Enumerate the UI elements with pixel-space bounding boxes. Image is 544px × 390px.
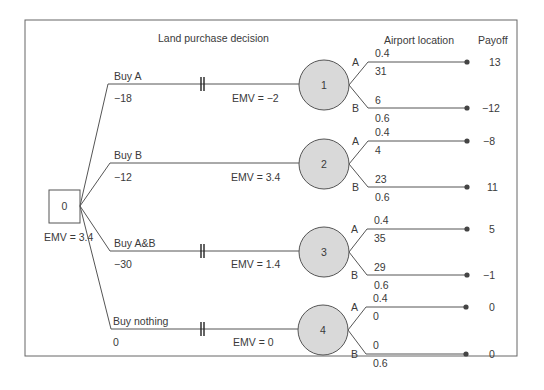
- payoff-value: 0: [489, 348, 495, 360]
- branch-emv: EMV = −2: [232, 92, 279, 104]
- branch-emv: EMV = 0: [233, 336, 274, 348]
- chance-node-label: 2: [321, 158, 327, 170]
- outcome-value: 0: [373, 339, 379, 351]
- payoff-value: −12: [482, 102, 500, 114]
- header-chance: Airport location: [384, 34, 454, 46]
- outcome-prob: 0.6: [373, 357, 388, 369]
- outcome-label: B: [351, 348, 358, 360]
- outcome-value: 0: [373, 310, 379, 322]
- root-emv: EMV = 3.4: [44, 231, 93, 243]
- branch-cost: 0: [113, 336, 119, 348]
- decision-node-label: 0: [62, 200, 68, 212]
- outcome-value: 35: [374, 232, 386, 244]
- branch-name: Buy A&B: [114, 237, 155, 249]
- outcome-prob: 0.6: [374, 279, 389, 291]
- branch-name: Buy nothing: [113, 315, 169, 327]
- payoff-value: 0: [489, 301, 495, 313]
- payoff-value: 13: [489, 56, 501, 68]
- frame: [25, 20, 517, 356]
- branch-cost: −12: [114, 171, 132, 183]
- branch-cost: −30: [114, 258, 132, 270]
- outcome-value: 4: [375, 144, 381, 156]
- outcome-prob: 0.4: [374, 214, 389, 226]
- payoff-value: −1: [483, 269, 495, 281]
- chance-node-label: 3: [321, 246, 327, 258]
- outcome-prob: 0.4: [373, 292, 388, 304]
- branch-emv: EMV = 3.4: [231, 171, 280, 183]
- payoff-value: 11: [487, 181, 498, 193]
- outcome-label: B: [352, 181, 359, 193]
- outcome-prob: 0.4: [375, 126, 390, 138]
- outcome-label: A: [351, 301, 358, 313]
- outcome-value: 31: [375, 65, 387, 77]
- header-payoff: Payoff: [478, 34, 508, 46]
- chance-node-label: 1: [321, 79, 327, 91]
- outcome-value: 6: [375, 94, 381, 106]
- decision-tree: Land purchase decision Airport location …: [0, 0, 544, 390]
- branch-emv: EMV = 1.4: [231, 258, 280, 270]
- branch-name: Buy B: [114, 149, 142, 161]
- header-decision: Land purchase decision: [158, 32, 269, 44]
- outcome-value: 29: [374, 261, 386, 273]
- outcome-label: B: [352, 102, 359, 114]
- outcome-value: 23: [375, 173, 387, 185]
- outcome-label: A: [352, 135, 359, 147]
- branch-cost: −18: [114, 92, 132, 104]
- chance-node-label: 4: [320, 324, 326, 336]
- branch-name: Buy A: [114, 70, 141, 82]
- payoff-value: −8: [483, 135, 495, 147]
- outcome-prob: 0.6: [375, 112, 390, 124]
- outcome-prob: 0.4: [375, 47, 390, 59]
- outcome-label: B: [351, 269, 358, 281]
- outcome-label: A: [351, 223, 358, 235]
- outcome-prob: 0.6: [375, 191, 390, 203]
- outcome-label: A: [352, 56, 359, 68]
- payoff-value: 5: [489, 223, 495, 235]
